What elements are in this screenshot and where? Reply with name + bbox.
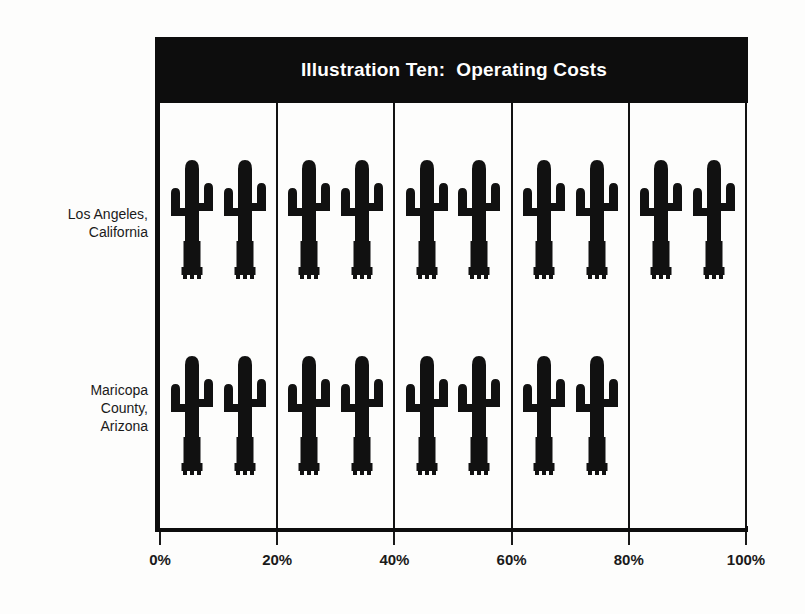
tick-mark-20	[276, 532, 278, 545]
tick-mark-0	[159, 532, 161, 545]
pictogram-row-maricopa	[160, 351, 746, 481]
category-label-los-angeles: Los Angeles, California	[68, 205, 148, 241]
tick-label-60: 60%	[477, 551, 547, 568]
cactus-icon-la	[638, 155, 684, 283]
tick-mark-40	[393, 532, 395, 545]
tick-mark-60	[511, 532, 513, 545]
plot-area	[160, 103, 746, 528]
cactus-icon-mc	[404, 351, 450, 479]
cactus-icon-la	[456, 155, 502, 283]
cactus-icon-la	[521, 155, 567, 283]
cactus-icon-la	[404, 155, 450, 283]
tick-label-40: 40%	[359, 551, 429, 568]
cactus-icon-mc	[339, 351, 385, 479]
cactus-icon-la	[286, 155, 332, 283]
tick-mark-80	[628, 532, 630, 545]
chart-title-bar: Illustration Ten: Operating Costs	[160, 37, 748, 103]
tick-label-0: 0%	[125, 551, 195, 568]
cactus-icon-mc	[286, 351, 332, 479]
page-title: Illustration Ten: Operating Costs	[160, 37, 748, 103]
tick-label-20: 20%	[242, 551, 312, 568]
cactus-icon-la	[691, 155, 737, 283]
cactus-icon-mc	[574, 351, 620, 479]
category-label-maricopa: Maricopa County, Arizona	[90, 381, 148, 435]
cactus-icon-mc	[222, 351, 268, 479]
cactus-icon-la	[222, 155, 268, 283]
tick-label-80: 80%	[594, 551, 664, 568]
cactus-icon-mc	[169, 351, 215, 479]
cactus-icon-mc	[521, 351, 567, 479]
cactus-icon-mc	[456, 351, 502, 479]
pictogram-row-los-angeles	[160, 155, 746, 285]
pictogram-chart: Illustration Ten: Operating Costs Los An…	[0, 0, 805, 614]
cactus-icon-la	[574, 155, 620, 283]
tick-label-100: 100%	[711, 551, 781, 568]
tick-mark-100	[745, 532, 747, 545]
cactus-icon-la	[169, 155, 215, 283]
cactus-icon-la	[339, 155, 385, 283]
